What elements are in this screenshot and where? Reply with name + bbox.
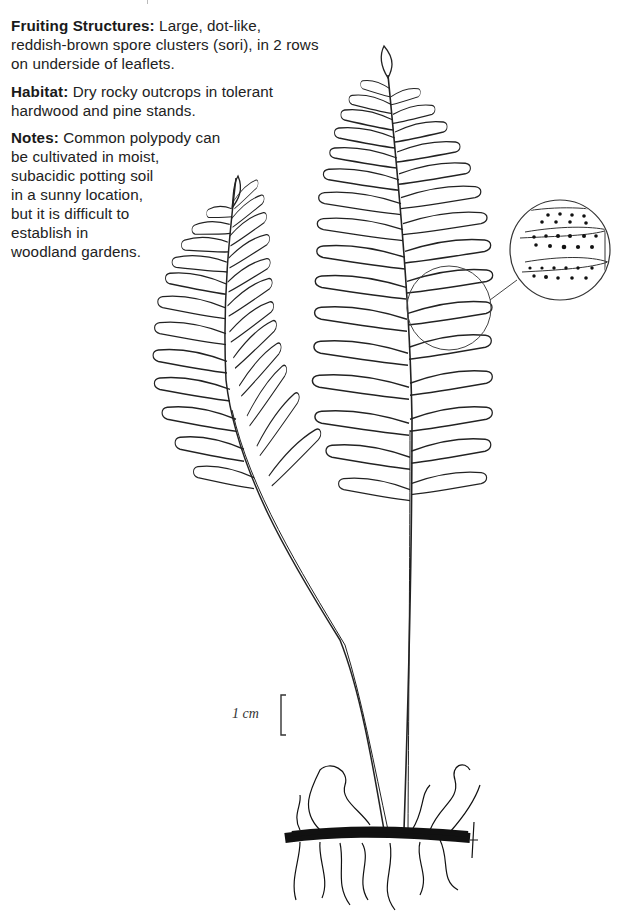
scale-bar-label: 1 cm xyxy=(232,706,259,722)
fern-illustration xyxy=(0,0,618,915)
left-frond xyxy=(153,176,388,830)
rhizome-roots xyxy=(285,765,480,910)
scale-bar xyxy=(281,695,286,735)
right-frond xyxy=(312,46,492,830)
sori-inset-magnifier xyxy=(407,200,610,350)
